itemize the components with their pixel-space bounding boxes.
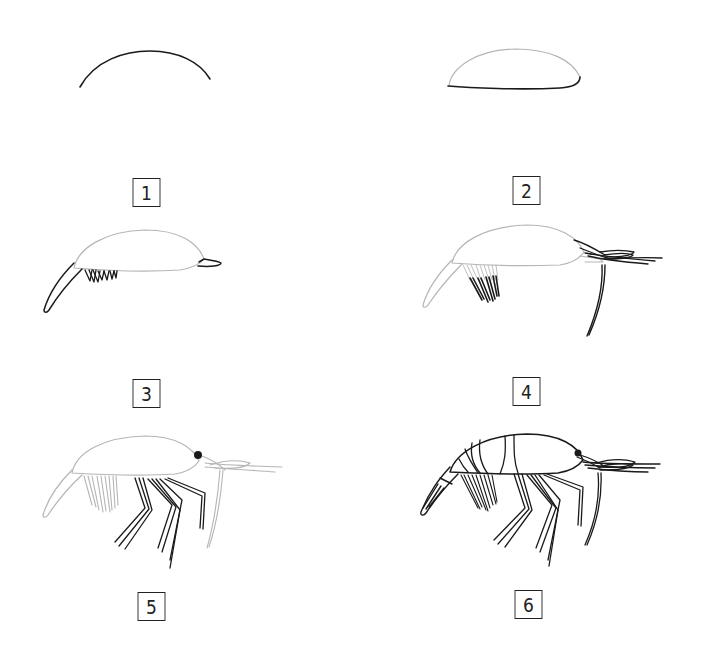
antennae: [574, 240, 662, 264]
long-whisker: [585, 473, 601, 545]
tail: [423, 260, 462, 307]
body-outline: [74, 230, 204, 271]
rostrum: [198, 259, 221, 266]
step-6-label: 6: [515, 590, 543, 619]
antennae-guide: [202, 456, 282, 548]
swimmerets-guide: [84, 476, 118, 512]
walking-legs: [115, 478, 205, 568]
step-3-label: 3: [133, 379, 161, 408]
tail: [44, 263, 82, 312]
step-6-drawing: [421, 434, 660, 566]
long-whisker: [587, 265, 605, 336]
step-4-label: 4: [513, 377, 541, 406]
step-5-drawing: [43, 436, 282, 568]
step-3-drawing: [44, 230, 221, 312]
step-4-drawing: [423, 225, 662, 336]
eye: [194, 451, 202, 459]
tail: [421, 467, 458, 515]
swimmerets: [85, 270, 117, 282]
step-1-label: 1: [133, 178, 161, 207]
swimmerets: [461, 475, 497, 511]
body-belly: [448, 77, 580, 89]
shrimp-drawing-steps: [0, 0, 705, 661]
step-2-drawing: [448, 49, 580, 89]
step-5-label: 5: [138, 592, 166, 621]
step-1-drawing: [80, 51, 210, 87]
body-outline: [452, 225, 584, 266]
body-outline: [72, 436, 199, 475]
tail: [43, 470, 82, 517]
step-2-label: 2: [513, 176, 541, 205]
body-top: [449, 49, 580, 85]
walking-legs: [494, 474, 583, 566]
back-arc: [80, 51, 210, 87]
